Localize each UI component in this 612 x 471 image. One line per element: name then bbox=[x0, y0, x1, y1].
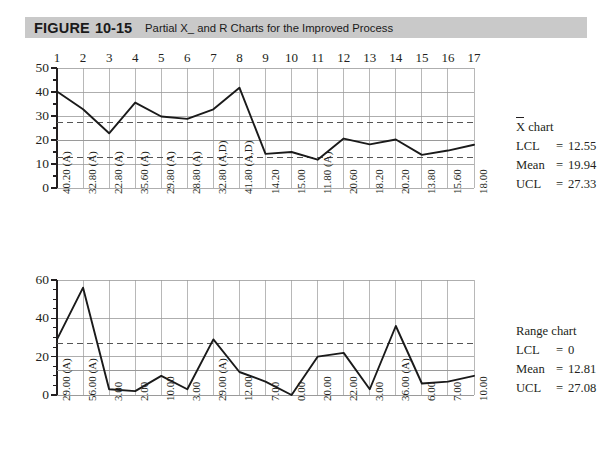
figure-label: FIGURE bbox=[34, 20, 90, 36]
range-point-label: 2.00 bbox=[139, 382, 150, 401]
xbar-mean-key: Mean bbox=[516, 156, 556, 175]
range-lcl-value: 0 bbox=[568, 341, 574, 360]
xbar-chart: 01020304050123456789101112131415161740.2… bbox=[0, 46, 500, 261]
figure-caption: Partial X_ and R Charts for the Improved… bbox=[145, 22, 393, 34]
range-point-label: 36.00 (A) bbox=[400, 358, 411, 401]
xbar-point-label: 18.00 bbox=[478, 169, 489, 194]
xbar-ytick-label: 40 bbox=[11, 85, 49, 99]
range-lcl-key: LCL bbox=[516, 341, 556, 360]
xbar-xtick-label: 6 bbox=[173, 51, 201, 64]
range-ucl-value: 27.08 bbox=[568, 379, 596, 398]
xbar-xtick-label: 13 bbox=[356, 51, 384, 64]
xbar-lcl-value: 12.55 bbox=[568, 137, 596, 156]
range-point-label: 3.00 bbox=[113, 382, 124, 401]
range-ytick-label: 20 bbox=[11, 350, 49, 364]
xbar-point-label: 28.80 (A) bbox=[191, 151, 202, 194]
xbar-ucl-key: UCL bbox=[516, 175, 556, 194]
range-point-label: 20.00 bbox=[322, 376, 333, 401]
range-point-label: 3.00 bbox=[374, 382, 385, 401]
xbar-point-label: 13.80 bbox=[426, 169, 437, 194]
xbar-point-label: 15.60 bbox=[452, 169, 463, 194]
xbar-xtick-label: 2 bbox=[69, 51, 97, 64]
range-point-label: 29.00 (A) bbox=[217, 358, 228, 401]
xbar-point-label: 32.80 (A,D) bbox=[217, 141, 228, 194]
xbar-ytick-label: 0 bbox=[11, 181, 49, 195]
xbar-legend-row-lcl: LCL = 12.55 bbox=[516, 137, 596, 156]
range-legend: Range chart LCL = 0 Mean = 12.81 UCL = 2… bbox=[516, 322, 596, 399]
xbar-point-label: 40.20 (A) bbox=[61, 151, 72, 194]
range-ucl-key: UCL bbox=[516, 379, 556, 398]
xbar-lcl-eq: = bbox=[556, 137, 568, 156]
range-point-label: 7.00 bbox=[452, 382, 463, 401]
range-point-label: 6.00 bbox=[426, 382, 437, 401]
range-ytick-label: 40 bbox=[11, 311, 49, 325]
xbar-xtick-label: 17 bbox=[460, 51, 488, 64]
xbar-xtick-label: 15 bbox=[408, 51, 436, 64]
xbar-point-label: 41.80 (A,D) bbox=[243, 141, 254, 194]
range-legend-title: Range chart bbox=[516, 322, 596, 341]
xbar-legend-title: X chart bbox=[516, 118, 596, 137]
range-point-label: 10.00 bbox=[165, 376, 176, 401]
xbar-ytick-label: 30 bbox=[11, 109, 49, 123]
xbar-ytick-label: 10 bbox=[11, 157, 49, 171]
range-point-label: 0.00 bbox=[296, 382, 307, 401]
xbar-point-label: 29.80 (A) bbox=[165, 151, 176, 194]
xbar-ucl-eq: = bbox=[556, 175, 568, 194]
xbar-xtick-label: 7 bbox=[199, 51, 227, 64]
xbar-point-label: 18.20 bbox=[374, 169, 385, 194]
range-plot-area bbox=[0, 268, 500, 471]
xbar-xtick-label: 3 bbox=[95, 51, 123, 64]
xbar-ytick-label: 20 bbox=[11, 133, 49, 147]
xbar-xtick-label: 1 bbox=[43, 51, 71, 64]
range-point-label: 7.00 bbox=[270, 382, 281, 401]
xbar-lcl-key: LCL bbox=[516, 137, 556, 156]
xbar-legend-row-mean: Mean = 19.94 bbox=[516, 156, 596, 175]
xbar-legend-title-prefix: X bbox=[516, 120, 525, 134]
range-legend-row-ucl: UCL = 27.08 bbox=[516, 379, 596, 398]
figure-root: FIGURE 10-15 Partial X_ and R Charts for… bbox=[0, 0, 612, 471]
range-legend-row-lcl: LCL = 0 bbox=[516, 341, 596, 360]
xbar-ucl-value: 27.33 bbox=[568, 175, 596, 194]
range-lcl-eq: = bbox=[556, 341, 568, 360]
range-legend-row-mean: Mean = 12.81 bbox=[516, 360, 596, 379]
xbar-xtick-label: 14 bbox=[382, 51, 410, 64]
xbar-point-label: 20.60 bbox=[348, 169, 359, 194]
range-mean-value: 12.81 bbox=[568, 360, 596, 379]
range-point-label: 3.00 bbox=[191, 382, 202, 401]
range-mean-eq: = bbox=[556, 360, 568, 379]
xbar-mean-eq: = bbox=[556, 156, 568, 175]
xbar-point-label: 20.20 bbox=[400, 169, 411, 194]
range-chart: 020406029.00 (A)56.00 (A)3.002.0010.003.… bbox=[0, 268, 500, 471]
range-point-label: 56.00 (A) bbox=[87, 358, 98, 401]
xbar-xtick-label: 11 bbox=[304, 51, 332, 64]
range-point-label: 12.00 bbox=[243, 376, 254, 401]
range-ucl-eq: = bbox=[556, 379, 568, 398]
xbar-legend: X chart LCL = 12.55 Mean = 19.94 UCL = 2… bbox=[516, 118, 596, 195]
xbar-legend-row-ucl: UCL = 27.33 bbox=[516, 175, 596, 194]
xbar-point-label: 15.00 bbox=[296, 169, 307, 194]
xbar-xtick-label: 12 bbox=[330, 51, 358, 64]
xbar-xtick-label: 8 bbox=[225, 51, 253, 64]
xbar-legend-title-suffix: chart bbox=[525, 120, 553, 134]
figure-header-band: FIGURE 10-15 Partial X_ and R Charts for… bbox=[25, 17, 587, 38]
xbar-point-label: 35.60 (A) bbox=[139, 151, 150, 194]
xbar-xtick-label: 16 bbox=[434, 51, 462, 64]
xbar-xtick-label: 4 bbox=[121, 51, 149, 64]
range-ytick-label: 60 bbox=[11, 273, 49, 287]
range-ytick-label: 0 bbox=[11, 388, 49, 402]
xbar-point-label: 22.80 (A) bbox=[113, 151, 124, 194]
range-point-label: 29.00 (A) bbox=[61, 358, 72, 401]
range-mean-key: Mean bbox=[516, 360, 556, 379]
xbar-point-label: 14.20 bbox=[270, 169, 281, 194]
range-point-label: 10.00 bbox=[478, 376, 489, 401]
xbar-xtick-label: 10 bbox=[278, 51, 306, 64]
figure-number: 10-15 bbox=[95, 20, 132, 36]
xbar-mean-value: 19.94 bbox=[568, 156, 596, 175]
xbar-point-label: 11.80 (A) bbox=[322, 152, 333, 194]
xbar-point-label: 32.80 (A) bbox=[87, 151, 98, 194]
xbar-xtick-label: 9 bbox=[252, 51, 280, 64]
xbar-xtick-label: 5 bbox=[147, 51, 175, 64]
range-point-label: 22.00 bbox=[348, 376, 359, 401]
